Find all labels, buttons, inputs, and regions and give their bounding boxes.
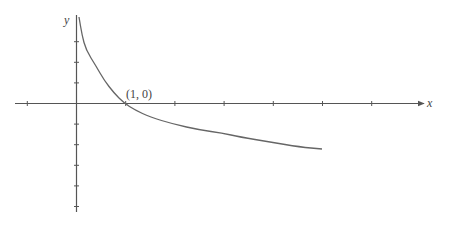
graph: y x (1, 0) [0, 0, 451, 225]
curve-series [79, 17, 322, 149]
point-annotation: (1, 0) [126, 87, 152, 101]
y-axis-label: y [63, 13, 70, 27]
x-axis-label: x [426, 96, 433, 110]
